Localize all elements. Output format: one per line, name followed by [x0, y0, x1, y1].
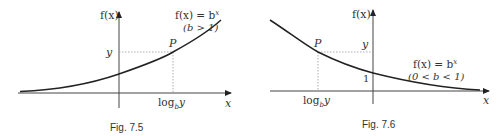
function-label: f(x) = bx [175, 9, 219, 21]
y-axis-label: f(x) [100, 9, 119, 22]
figure-7-6: f(x) P y 1 f(x) = bx (0 < b < 1) logby x… [270, 8, 490, 130]
function-label: f(x) = bx [413, 58, 457, 70]
condition-label: (b > 1) [183, 22, 218, 33]
y-marker-label: y [105, 46, 113, 59]
point-label: P [168, 37, 177, 50]
y-marker-label: y [361, 38, 369, 51]
intercept-label: 1 [363, 73, 369, 84]
figure-caption: Fig. 7.6 [362, 119, 396, 130]
figures-canvas: f(x) f(x) = bx (b > 1) P y logby x Fig. … [0, 0, 501, 136]
y-axis-label: f(x) [352, 8, 371, 21]
figure-7-5: f(x) f(x) = bx (b > 1) P y logby x Fig. … [18, 9, 232, 133]
figure-caption: Fig. 7.5 [110, 122, 144, 133]
condition-label: (0 < b < 1) [408, 71, 465, 82]
x-axis-label: x [483, 94, 490, 107]
point-label: P [313, 37, 322, 50]
x-marker-label: logby [303, 94, 331, 109]
x-axis-label: x [225, 97, 232, 110]
x-marker-label: logby [158, 96, 186, 111]
